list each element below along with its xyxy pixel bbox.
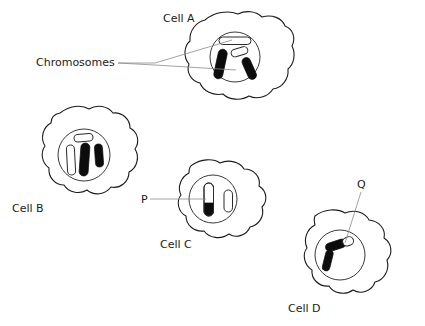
cell-b-label: Cell B [12,202,44,215]
chromosomes-label: Chromosomes [36,56,115,69]
cell-b-group[interactable]: Cell B [12,106,138,215]
cell-diagram-root: Cell A Cell B [0,0,425,326]
cell-d-nucleus [315,230,365,280]
pointer-q-label: Q [357,178,366,191]
cell-a-chromosome-light-1 [219,37,251,45]
cell-b-chromosome-dark-2 [94,144,104,168]
cell-b-chromosome-light-2 [66,145,76,175]
cell-c-group[interactable]: Cell C [160,160,266,251]
cell-d-group[interactable]: Cell D [288,210,391,315]
pointer-p-label: P [141,193,148,206]
cell-b-chromosome-light-1 [74,133,94,142]
cell-c-chromosome-p [203,183,215,217]
cell-a-group[interactable]: Cell A [163,12,294,100]
cell-c-chromosome-light [224,190,233,212]
cell-a-label: Cell A [163,12,195,25]
cell-c-label: Cell C [160,238,192,251]
cell-b-chromosome-dark-1 [79,143,90,177]
cell-d-label: Cell D [288,302,321,315]
cell-diagram-canvas: Cell A Cell B [0,0,425,326]
